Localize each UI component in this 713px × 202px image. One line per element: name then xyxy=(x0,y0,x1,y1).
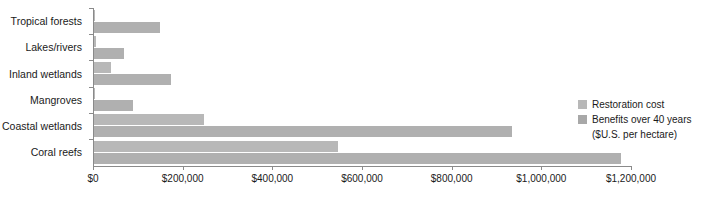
x-tick-label: $800,000 xyxy=(431,173,473,185)
bar-restoration-cost xyxy=(94,62,111,73)
y-tick-mark xyxy=(89,8,93,9)
legend-swatch-icon-benefits xyxy=(578,115,587,124)
bar-benefits xyxy=(94,126,512,137)
y-tick-mark xyxy=(89,113,93,114)
x-tick-mark xyxy=(93,166,94,170)
bar-benefits xyxy=(94,22,160,33)
chart-legend: Restoration cost Benefits over 40 years … xyxy=(578,99,713,141)
plot-area xyxy=(93,8,633,166)
x-tick-label: $200,000 xyxy=(162,173,204,185)
category-label: Lakes/rivers xyxy=(25,41,82,53)
legend-item-restoration-cost: Restoration cost xyxy=(578,99,713,111)
x-tick-label: $600,000 xyxy=(341,173,383,185)
x-tick-label: $1,200,000 xyxy=(606,173,656,185)
x-tick-mark xyxy=(272,166,273,170)
x-tick-label: $1,000,000 xyxy=(516,173,566,185)
x-tick-label: $400,000 xyxy=(251,173,293,185)
x-tick-label: $0 xyxy=(87,173,98,185)
bar-restoration-cost xyxy=(94,10,95,21)
bar-restoration-cost xyxy=(94,141,338,152)
y-tick-mark xyxy=(89,34,93,35)
x-tick-mark xyxy=(631,166,632,170)
category-label: Tropical forests xyxy=(11,15,82,27)
legend-swatch-icon-restoration xyxy=(578,100,587,109)
category-label: Coral reefs xyxy=(31,146,82,158)
bar-restoration-cost xyxy=(94,114,204,125)
bar-benefits xyxy=(94,74,171,85)
legend-item-benefits: Benefits over 40 years xyxy=(578,114,713,126)
bar-restoration-cost xyxy=(94,36,96,47)
bar-restoration-cost xyxy=(94,88,95,99)
y-tick-mark xyxy=(89,139,93,140)
x-tick-mark xyxy=(362,166,363,170)
bar-benefits xyxy=(94,153,621,164)
y-tick-mark xyxy=(89,87,93,88)
legend-units-note: ($U.S. per hectare) xyxy=(592,129,713,141)
category-label: Coastal wetlands xyxy=(2,120,82,132)
bar-benefits xyxy=(94,100,133,111)
legend-label-benefits: Benefits over 40 years xyxy=(592,114,692,126)
y-tick-mark xyxy=(89,60,93,61)
legend-label-restoration: Restoration cost xyxy=(592,99,664,111)
category-axis-labels: Tropical forestsLakes/riversInland wetla… xyxy=(0,8,88,166)
category-label: Inland wetlands xyxy=(9,68,82,80)
bar-chart: Tropical forestsLakes/riversInland wetla… xyxy=(0,0,713,202)
category-label: Mangroves xyxy=(30,94,82,106)
x-tick-mark xyxy=(452,166,453,170)
x-tick-mark xyxy=(183,166,184,170)
x-tick-mark xyxy=(541,166,542,170)
bar-benefits xyxy=(94,48,124,59)
